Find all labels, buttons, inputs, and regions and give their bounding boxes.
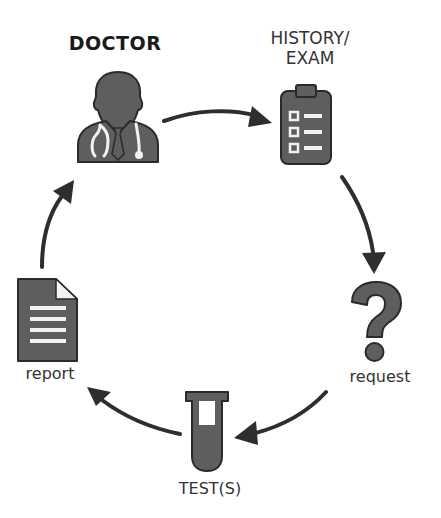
question-mark-icon <box>352 282 401 361</box>
arrow-doctor-to-history <box>164 106 272 127</box>
history-exam-label: HISTORY/ EXAM <box>255 28 365 68</box>
cycle-diagram <box>0 0 441 518</box>
arrow-history-to-request <box>342 177 386 274</box>
clipboard-icon <box>281 85 331 164</box>
history-label-line1: HISTORY/ <box>255 28 365 48</box>
history-label-line2: EXAM <box>255 48 365 68</box>
test-tube-icon <box>186 392 228 471</box>
tests-label: TEST(S) <box>160 479 260 498</box>
arrow-report-to-doctor <box>42 180 74 267</box>
doctor-icon <box>78 72 158 162</box>
document-icon <box>18 279 77 361</box>
doctor-label: DOCTOR <box>55 32 175 54</box>
request-label: request <box>340 367 420 386</box>
arrow-request-to-tests <box>234 392 326 445</box>
report-label: report <box>0 364 100 383</box>
arrow-tests-to-report <box>87 387 180 434</box>
